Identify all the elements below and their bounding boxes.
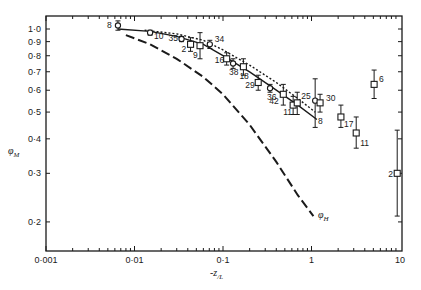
circle-marker <box>147 30 152 35</box>
x-tick-label: 10 <box>395 255 405 265</box>
square-marker <box>255 79 261 85</box>
point-label: 17 <box>344 119 354 129</box>
axis-ticks: 0·0010·010·11101·00·90·80·70·60·50·40·30… <box>28 16 405 265</box>
square-marker <box>240 64 246 70</box>
point-label: 29 <box>245 80 255 90</box>
point-label: 9 <box>193 50 198 60</box>
point-label: 10 <box>154 31 164 41</box>
x-tick-label: 0·1 <box>216 255 229 265</box>
y-tick-label: 0·9 <box>28 37 41 47</box>
data-point-2: 2 <box>388 130 400 216</box>
y-axis-title: φM <box>8 145 21 159</box>
data-point-6: 6 <box>371 70 384 98</box>
point-label: 34 <box>215 34 225 44</box>
square-marker <box>353 130 359 136</box>
y-tick-label: 0·5 <box>28 107 41 117</box>
x-axis-title: -z/L <box>210 267 223 281</box>
circle-marker <box>207 42 212 47</box>
point-label: 6 <box>379 74 384 84</box>
x-tick-label: 1 <box>309 255 314 265</box>
data-point-10: 10 <box>147 30 163 41</box>
circle-marker <box>179 36 184 41</box>
y-tick-label: 1·0 <box>28 24 41 34</box>
phi-h-curve-label: φH <box>318 209 330 223</box>
data-point-16: 16 <box>215 53 230 65</box>
y-tick-label: 0·2 <box>28 217 41 227</box>
point-label: 2 <box>388 169 393 179</box>
data-point-17: 17 <box>338 105 354 129</box>
plot-border <box>46 16 402 251</box>
point-label: 8 <box>107 20 112 30</box>
circle-marker <box>115 23 120 28</box>
circle-marker <box>230 61 235 66</box>
point-label: 35 <box>169 33 179 43</box>
point-label: 11 <box>283 107 292 117</box>
y-tick-label: 0·7 <box>28 67 41 77</box>
point-label: 30 <box>326 93 336 103</box>
point-label: 18 <box>239 71 249 81</box>
solid-curve-label: 8 <box>318 116 323 126</box>
square-marker <box>224 56 230 62</box>
x-tick-label: 0·001 <box>34 255 57 265</box>
x-tick-label: 0·01 <box>125 255 143 265</box>
square-marker <box>317 100 323 106</box>
point-label: 2 <box>182 44 187 54</box>
phi-m-chart: 0·0010·010·11101·00·90·80·70·60·50·40·30… <box>0 0 421 290</box>
data-point-38: 38 <box>229 59 239 78</box>
square-marker <box>280 91 286 97</box>
square-marker <box>188 41 194 47</box>
data-point-11: 11 <box>353 117 369 148</box>
data-point-18: 18 <box>239 59 249 81</box>
point-label: 16 <box>215 55 225 65</box>
y-tick-label: 0·4 <box>28 134 41 144</box>
data-point-9: 9 <box>193 33 203 60</box>
data-point-30: 30 <box>317 93 336 112</box>
y-tick-label: 0·3 <box>28 168 41 178</box>
y-tick-label: 0·8 <box>28 51 41 61</box>
point-label: 11 <box>360 138 369 148</box>
square-marker <box>197 43 203 49</box>
square-marker <box>294 100 300 106</box>
point-label: 38 <box>229 67 239 77</box>
circle-marker <box>267 86 272 91</box>
data-points: 810353438362916182942112530171162 <box>107 20 400 216</box>
y-tick-label: 0·6 <box>28 85 41 95</box>
point-label: 25 <box>301 91 311 101</box>
square-marker <box>371 81 377 87</box>
plot-frame <box>46 16 402 251</box>
square-marker <box>394 170 400 176</box>
point-label: 42 <box>269 96 279 106</box>
